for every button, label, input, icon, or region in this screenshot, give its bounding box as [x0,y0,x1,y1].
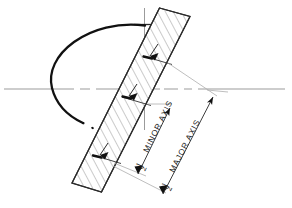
ellipse-trammel-diagram: MINOR AXIS 1 2 MAJOR AXIS 1 2 [0,0,292,208]
major-axis-label-group: MAJOR AXIS 1 2 [159,118,202,192]
major-axis-label: MAJOR AXIS [168,118,202,174]
drawing-sheet: MINOR AXIS 1 2 MAJOR AXIS 1 2 [0,0,292,208]
minor-axis-label: MINOR AXIS [142,99,175,154]
